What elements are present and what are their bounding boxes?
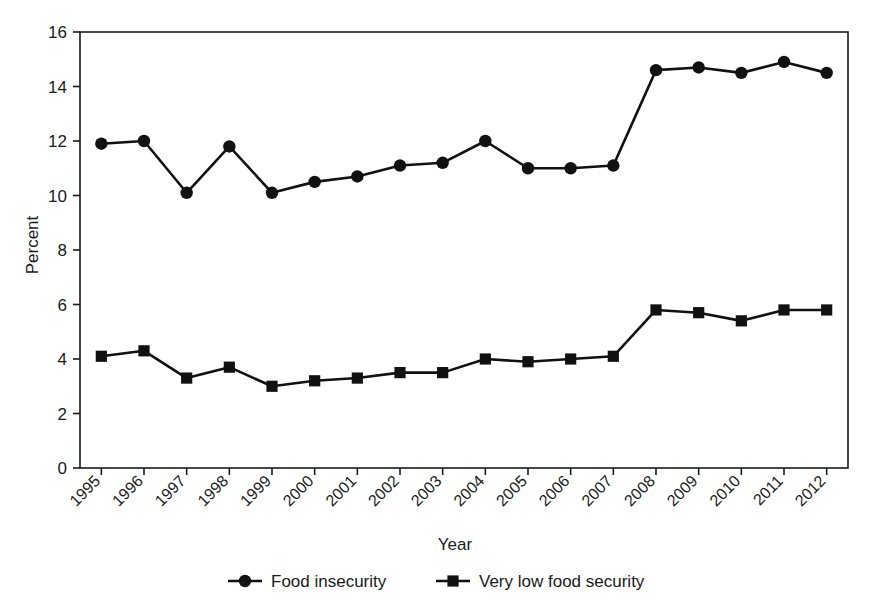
- line-chart: 0246810121416 19951996199719981999200020…: [0, 0, 876, 608]
- data-point-marker: [778, 304, 789, 315]
- data-point-marker: [266, 187, 278, 199]
- data-point-marker: [736, 315, 747, 326]
- data-point-marker: [181, 372, 192, 383]
- data-point-marker: [650, 304, 661, 315]
- data-point-marker: [479, 135, 491, 147]
- data-point-marker: [522, 356, 533, 367]
- data-point-marker: [778, 56, 790, 68]
- data-point-marker: [436, 157, 448, 169]
- data-point-marker: [607, 159, 619, 171]
- legend-label: Very low food security: [479, 572, 645, 591]
- legend-square-marker-icon: [447, 575, 458, 586]
- y-tick-label: 8: [58, 241, 67, 260]
- data-point-marker: [564, 162, 576, 174]
- data-point-marker: [650, 64, 662, 76]
- data-point-marker: [309, 375, 320, 386]
- y-tick-label: 10: [48, 187, 67, 206]
- data-point-marker: [351, 170, 363, 182]
- chart-figure: 0246810121416 19951996199719981999200020…: [0, 0, 876, 608]
- y-tick-label: 16: [48, 23, 67, 42]
- data-point-marker: [820, 67, 832, 79]
- y-axis-title: Percent: [23, 215, 42, 274]
- data-point-marker: [138, 345, 149, 356]
- y-tick-label: 12: [48, 132, 67, 151]
- data-point-marker: [522, 162, 534, 174]
- data-point-marker: [735, 67, 747, 79]
- y-tick-label: 0: [58, 459, 67, 478]
- data-point-marker: [692, 61, 704, 73]
- data-point-marker: [608, 351, 619, 362]
- data-point-marker: [180, 187, 192, 199]
- data-point-marker: [821, 304, 832, 315]
- legend-label: Food insecurity: [271, 572, 387, 591]
- y-tick-label: 2: [58, 405, 67, 424]
- data-point-marker: [565, 353, 576, 364]
- data-point-marker: [480, 353, 491, 364]
- data-point-marker: [394, 159, 406, 171]
- data-point-marker: [95, 138, 107, 150]
- data-point-marker: [308, 176, 320, 188]
- data-point-marker: [224, 362, 235, 373]
- data-point-marker: [352, 372, 363, 383]
- x-axis-title: Year: [438, 535, 473, 554]
- data-point-marker: [138, 135, 150, 147]
- chart-background: [0, 0, 876, 608]
- data-point-marker: [96, 351, 107, 362]
- data-point-marker: [394, 367, 405, 378]
- y-tick-label: 6: [58, 296, 67, 315]
- y-tick-label: 14: [48, 78, 67, 97]
- data-point-marker: [266, 381, 277, 392]
- data-point-marker: [223, 140, 235, 152]
- data-point-marker: [437, 367, 448, 378]
- legend-circle-marker-icon: [239, 575, 251, 587]
- data-point-marker: [693, 307, 704, 318]
- y-tick-label: 4: [58, 350, 67, 369]
